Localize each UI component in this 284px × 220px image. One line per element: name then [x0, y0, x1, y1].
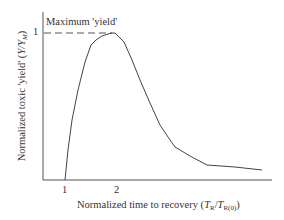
x-axis-label-end: )	[236, 199, 240, 210]
x-axis-label-sub2: R(0)	[223, 204, 236, 212]
y-tick-1: 1	[33, 26, 38, 37]
x-axis-label: Normalized time to recovery (TR/TR(0))	[77, 199, 240, 212]
y-axis-label-text: Normalized toxic 'yield' (	[16, 55, 27, 162]
max-yield-annotation: Maximum 'yield'	[46, 16, 117, 27]
y-axis-label-var: Y/Y	[16, 40, 27, 55]
y-axis-label-end: )	[16, 31, 27, 35]
y-axis-label-sub: M	[21, 34, 29, 40]
x-tick-1: 1	[62, 184, 67, 195]
y-axis-label: Normalized toxic 'yield' (Y/YM)	[16, 31, 29, 162]
chart-canvas	[0, 0, 284, 220]
x-tick-2: 2	[114, 184, 119, 195]
yield-curve	[65, 33, 262, 180]
x-axis-label-text: Normalized time to recovery (	[77, 199, 204, 210]
